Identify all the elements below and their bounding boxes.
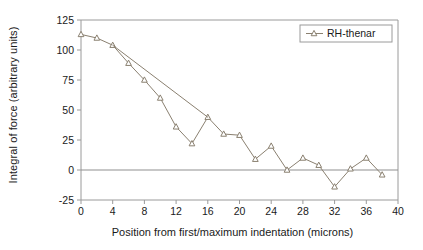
series-line bbox=[113, 45, 208, 117]
y-tick-label: 25 bbox=[62, 134, 74, 146]
chart-legend[interactable]: RH-thenar bbox=[300, 25, 392, 42]
data-point-marker bbox=[348, 166, 354, 171]
x-tick-label: 40 bbox=[392, 205, 404, 217]
data-point-marker bbox=[78, 31, 84, 36]
x-tick-label: 16 bbox=[202, 205, 214, 217]
x-tick-label: 24 bbox=[265, 205, 277, 217]
x-axis-ticks: 0481216202428323640 bbox=[78, 200, 404, 217]
data-series bbox=[78, 31, 385, 189]
chart-plot-area: -250255075100125 0481216202428323640 RH-… bbox=[0, 0, 423, 250]
y-tick-label: 100 bbox=[56, 44, 74, 56]
x-tick-label: 36 bbox=[360, 205, 372, 217]
x-tick-label: 20 bbox=[234, 205, 246, 217]
y-tick-label: 75 bbox=[62, 74, 74, 86]
y-tick-label: 50 bbox=[62, 104, 74, 116]
x-tick-label: 0 bbox=[78, 205, 84, 217]
data-point-marker bbox=[300, 155, 306, 160]
series-line bbox=[81, 34, 382, 186]
x-tick-label: 12 bbox=[170, 205, 182, 217]
y-tick-label: 0 bbox=[68, 164, 74, 176]
y-tick-label: -25 bbox=[59, 194, 74, 206]
data-point-marker bbox=[268, 143, 274, 148]
plot-frame bbox=[81, 20, 398, 200]
data-point-marker bbox=[173, 124, 179, 129]
x-tick-label: 28 bbox=[297, 205, 309, 217]
legend-label: RH-thenar bbox=[327, 27, 376, 39]
x-tick-label: 8 bbox=[141, 205, 147, 217]
x-tick-label: 32 bbox=[329, 205, 341, 217]
data-point-marker bbox=[363, 155, 369, 160]
chart-figure: Integral of force (arbitrary units) Posi… bbox=[0, 0, 423, 250]
y-tick-label: 125 bbox=[56, 14, 74, 26]
x-tick-label: 4 bbox=[110, 205, 116, 217]
y-axis-ticks: -250255075100125 bbox=[56, 14, 81, 206]
